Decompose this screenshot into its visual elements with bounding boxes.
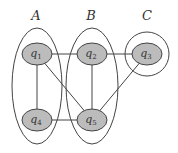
node-q1: q1 [22,43,52,65]
group-C-label: C [142,8,152,23]
node-q5: q5 [77,109,107,131]
node-q3: q3 [132,43,162,65]
graph-diagram: ABC q1q2q3q4q5 [0,0,178,153]
edge-q1-q5 [37,54,92,120]
edge-q3-q5 [92,54,147,120]
node-q2: q2 [77,43,107,65]
node-q4: q4 [22,109,52,131]
group-A-label: A [30,8,40,23]
group-B-label: B [85,8,96,23]
